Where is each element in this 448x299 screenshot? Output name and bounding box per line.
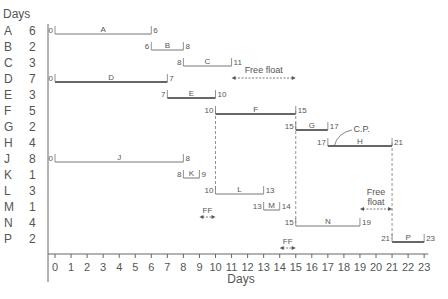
start-day: 15 [285,218,294,227]
gantt-chart: 01234567891011121314151617181920212223 A… [0,0,448,299]
start-day: 10 [205,106,214,115]
bar-label: A [100,25,106,34]
activity-duration: 5 [29,104,36,118]
bar-label: D [108,73,114,82]
end-day: 11 [234,58,243,67]
end-day: 7 [169,74,174,83]
x-tick-label: 21 [386,261,398,273]
x-tick-label: 16 [306,261,318,273]
activity-name: H [4,136,13,150]
start-day: 0 [49,154,54,163]
start-day: 6 [145,42,150,51]
bar-label: M [268,201,275,210]
start-day: 13 [253,202,262,211]
activity-row-k: K189K [4,168,206,182]
start-day: 8 [177,170,182,179]
end-day: 21 [394,138,403,147]
arrowhead-left-icon [199,215,203,219]
arrowhead-right-icon [292,76,296,80]
activity-row-m: M11314M [4,200,291,214]
start-day: 7 [161,90,166,99]
activity-row-j: J808J [4,152,190,166]
free-float-label: float [367,197,385,207]
x-tick-label: 15 [290,261,302,273]
activity-duration: 1 [29,200,36,214]
activity-duration: 8 [29,152,36,166]
activity-row-g: G21517G [4,120,339,134]
critical-path-label: C.P. [354,124,370,134]
activity-rows: A606AB268BC3811CD707DE3710EF51015FG21517… [4,24,436,246]
start-day: 21 [381,234,390,243]
free-float-label: Free [367,187,386,197]
bar-label: C [205,57,211,66]
arrowhead-left-icon [280,246,284,250]
activity-name: K [4,168,12,182]
x-tick-label: 22 [402,261,414,273]
activity-name: N [4,216,13,230]
end-day: 19 [362,218,371,227]
x-tick-label: 3 [100,261,106,273]
arrowhead-right-icon [212,215,216,219]
arrowhead-right-icon [292,246,296,250]
x-tick-label: 17 [322,261,334,273]
end-day: 8 [185,154,190,163]
activity-row-l: L31013L [4,184,275,198]
bar-label: B [165,41,170,50]
activity-duration: 2 [29,40,36,54]
bar-label: N [325,217,331,226]
x-tick-label: 19 [354,261,366,273]
activity-row-d: D707D [4,72,174,86]
activity-name: F [4,104,11,118]
activity-row-b: B268B [4,40,190,54]
x-tick-label: 4 [116,261,122,273]
x-tick-label: 20 [370,261,382,273]
ff-label: FF [203,206,213,215]
bar-label: E [189,89,194,98]
end-day: 13 [266,186,275,195]
end-day: 15 [298,106,307,115]
activity-duration: 1 [29,168,36,182]
activity-duration: 3 [29,88,36,102]
x-tick-label: 8 [180,261,186,273]
x-tick-label: 7 [164,261,170,273]
activity-name: L [4,184,11,198]
activity-name: B [4,40,12,54]
x-tick-label: 23 [418,261,430,273]
x-tick-label: 14 [274,261,286,273]
activity-name: E [4,88,12,102]
activity-row-p: P22123P [4,232,436,246]
activity-row-a: A606A [4,24,158,38]
bar-label: P [405,233,410,242]
start-day: 17 [317,138,326,147]
x-tick-label: 6 [148,261,154,273]
activity-name: D [4,72,13,86]
arrowhead-right-icon [388,207,392,211]
activity-name: J [4,152,10,166]
activity-duration: 3 [29,184,36,198]
end-day: 6 [153,26,158,35]
x-tick-label: 13 [258,261,270,273]
arrowhead-left-icon [360,207,364,211]
end-day: 8 [185,42,190,51]
end-day: 17 [330,122,339,131]
end-day: 23 [426,234,435,243]
arrowhead-left-icon [232,76,236,80]
end-day: 9 [201,170,206,179]
activity-duration: 7 [29,72,36,86]
activity-duration: 6 [29,24,36,38]
activity-name: A [4,24,12,38]
bar-label: K [189,169,195,178]
start-day: 0 [49,74,54,83]
activity-duration: 2 [29,120,36,134]
bar-label: F [253,105,258,114]
activity-name: P [4,232,12,246]
activity-name: C [4,56,13,70]
ff-label: FF [283,237,293,246]
activity-row-e: E3710E [4,88,227,102]
activity-name: M [4,200,14,214]
activity-duration: 4 [29,216,36,230]
cp-pointer [334,130,352,146]
bar-label: H [357,137,363,146]
y-axis-label: Days [3,7,30,21]
x-tick-label: 0 [52,261,58,273]
